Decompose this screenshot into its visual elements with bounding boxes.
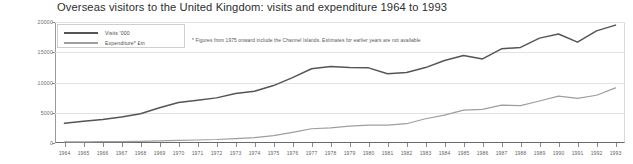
x-axis-tick-mark bbox=[350, 143, 351, 147]
x-axis-tick-mark bbox=[407, 143, 408, 147]
y-axis-tick-label: 10000 bbox=[5, 80, 53, 86]
x-axis-tick-mark bbox=[255, 143, 256, 147]
x-axis-tick-mark bbox=[160, 143, 161, 147]
x-axis-tick-mark bbox=[293, 143, 294, 147]
x-axis-tick-mark bbox=[369, 143, 370, 147]
x-axis-tick-mark bbox=[483, 143, 484, 147]
legend-swatch-visits bbox=[64, 32, 98, 34]
x-axis-tick-mark bbox=[502, 143, 503, 147]
series-line-expenditure bbox=[65, 88, 616, 142]
legend-swatch-expenditure bbox=[64, 42, 98, 44]
y-axis-tick-mark bbox=[52, 143, 55, 144]
y-axis-tick-label: 15000 bbox=[5, 49, 53, 55]
x-axis-tick-mark bbox=[388, 143, 389, 147]
chart-title: Overseas visitors to the United Kingdom:… bbox=[57, 1, 447, 13]
x-axis-tick-mark bbox=[331, 143, 332, 147]
chart-legend: Visits '000 Expenditure* £m bbox=[57, 24, 185, 48]
x-axis-tick-mark bbox=[122, 143, 123, 147]
x-axis-tick-mark bbox=[616, 143, 617, 147]
chart-footnote: * Figures from 1975 onward include the C… bbox=[192, 38, 421, 43]
chart-container: Overseas visitors to the United Kingdom:… bbox=[0, 0, 633, 164]
y-axis-tick-label: 0 bbox=[5, 140, 53, 146]
x-axis-tick-mark bbox=[312, 143, 313, 147]
y-axis-tick-label: 20000 bbox=[5, 19, 53, 25]
x-axis-tick-mark bbox=[198, 143, 199, 147]
x-axis-tick-mark bbox=[65, 143, 66, 147]
x-axis-tick-mark bbox=[236, 143, 237, 147]
y-axis-tick-label: 5000 bbox=[5, 110, 53, 116]
x-axis-tick-mark bbox=[445, 143, 446, 147]
x-axis-tick-mark bbox=[274, 143, 275, 147]
x-axis-tick-mark bbox=[464, 143, 465, 147]
x-axis-tick-mark bbox=[179, 143, 180, 147]
legend-label-expenditure: Expenditure* £m bbox=[105, 40, 145, 46]
x-axis-tick-label: 1993 bbox=[605, 150, 627, 156]
legend-item-visits: Visits '000 bbox=[64, 28, 130, 38]
x-axis-tick-mark bbox=[141, 143, 142, 147]
x-axis-tick-mark bbox=[521, 143, 522, 147]
x-axis-tick-mark bbox=[540, 143, 541, 147]
x-axis-tick-mark bbox=[84, 143, 85, 147]
legend-item-expenditure: Expenditure* £m bbox=[64, 38, 145, 48]
legend-label-visits: Visits '000 bbox=[105, 30, 130, 36]
x-axis-tick-mark bbox=[426, 143, 427, 147]
x-axis-tick-mark bbox=[559, 143, 560, 147]
x-axis-tick-mark bbox=[597, 143, 598, 147]
x-axis-tick-mark bbox=[578, 143, 579, 147]
x-axis-tick-mark bbox=[217, 143, 218, 147]
x-axis-tick-mark bbox=[103, 143, 104, 147]
